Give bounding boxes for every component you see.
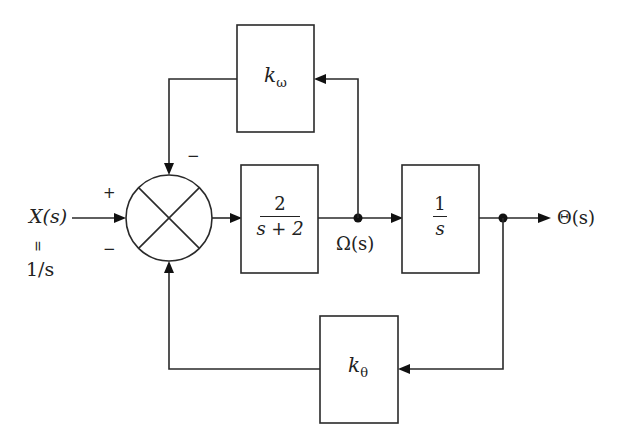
plant-input-arrow-icon (230, 213, 242, 223)
plant-numerator: 2 (256, 193, 304, 215)
position-gain-label: kθ (348, 353, 368, 380)
velocity-gain-subscript: ω (276, 75, 287, 90)
velocity-gain-input-arrow-icon (314, 74, 326, 84)
input-plus-sign: + (103, 184, 116, 202)
velocity-feedback-line-right (323, 79, 358, 218)
velocity-gain-symbol: k (264, 63, 276, 87)
position-gain-subscript: θ (360, 365, 368, 380)
integrator-numerator: 1 (425, 193, 455, 215)
input-equals-sign: = (30, 240, 46, 252)
position-feedback-line-left (169, 271, 320, 369)
block-diagram-canvas (0, 0, 619, 446)
summing-junction (126, 175, 212, 261)
input-signal-label: X(s) (29, 205, 67, 227)
output-signal-label: Θ(s) (557, 207, 595, 228)
position-gain-symbol: k (348, 353, 360, 377)
integrator-transfer-function: 1 s (425, 193, 455, 240)
omega-signal-label: Ω(s) (336, 233, 374, 254)
velocity-feedback-arrow-icon (164, 163, 174, 175)
integrator-fraction-bar (433, 216, 447, 217)
integrator-denominator: s (425, 218, 455, 240)
top-minus-sign: − (187, 147, 200, 165)
output-arrow-icon (538, 213, 551, 223)
bottom-minus-sign: − (103, 240, 116, 258)
plant-denominator: s + 2 (256, 218, 304, 240)
velocity-feedback-line-left (169, 79, 237, 165)
plant-transfer-function: 2 s + 2 (256, 193, 304, 240)
input-value-label: 1/s (26, 258, 54, 280)
plant-fraction-bar (260, 216, 300, 217)
input-arrow-icon (114, 213, 126, 223)
position-gain-input-arrow-icon (398, 364, 410, 374)
velocity-gain-label: kω (264, 63, 287, 90)
position-feedback-arrow-icon (164, 261, 174, 273)
